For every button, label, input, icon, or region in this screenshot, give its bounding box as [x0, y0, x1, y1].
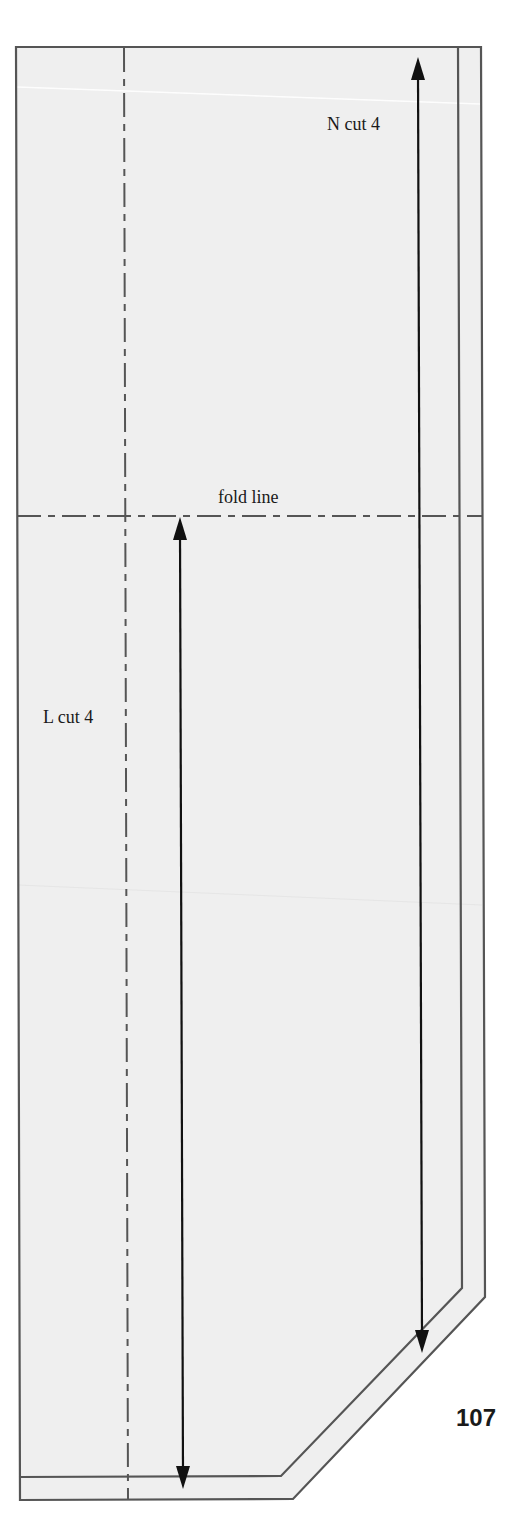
label-fold-line: fold line [218, 487, 279, 508]
page-number: 107 [456, 1404, 496, 1432]
pattern-piece-outer-fill [16, 47, 485, 1500]
label-piece-l: L cut 4 [43, 707, 93, 728]
pattern-diagram [0, 0, 526, 1540]
label-piece-n: N cut 4 [327, 114, 380, 135]
